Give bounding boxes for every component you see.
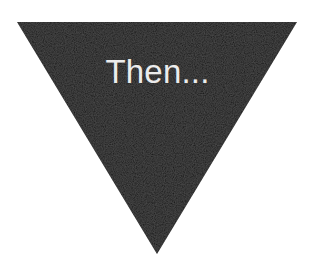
diagram-canvas: Then...: [0, 0, 315, 275]
inverted-triangle-shape: [0, 0, 315, 275]
triangle-label: Then...: [0, 53, 315, 91]
